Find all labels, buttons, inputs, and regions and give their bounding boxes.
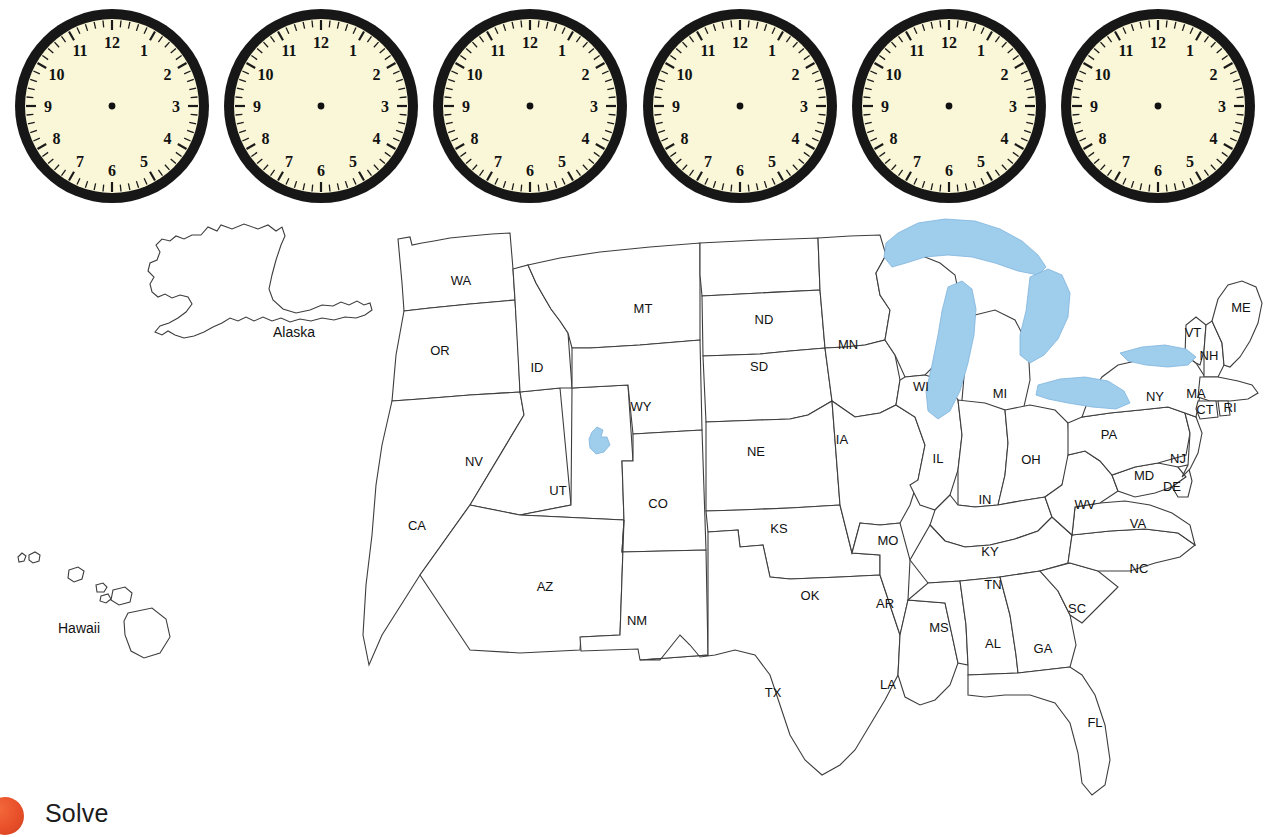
svg-text:2: 2 — [581, 66, 589, 83]
svg-text:12: 12 — [1150, 34, 1166, 51]
state-label-PA: PA — [1101, 427, 1118, 442]
svg-text:11: 11 — [700, 42, 715, 59]
svg-text:10: 10 — [886, 66, 902, 83]
svg-text:7: 7 — [1122, 153, 1130, 170]
svg-text:3: 3 — [590, 98, 598, 115]
svg-text:7: 7 — [704, 153, 712, 170]
svg-text:11: 11 — [909, 42, 924, 59]
svg-text:8: 8 — [890, 130, 898, 147]
state-label-KY: KY — [981, 544, 999, 559]
state-label-OH: OH — [1021, 452, 1041, 467]
svg-text:4: 4 — [1209, 130, 1217, 147]
state-label-FL: FL — [1087, 715, 1102, 730]
svg-text:3: 3 — [381, 98, 389, 115]
svg-text:7: 7 — [913, 153, 921, 170]
svg-text:2: 2 — [372, 66, 380, 83]
state-label-WV: WV — [1075, 497, 1096, 512]
state-ND — [700, 238, 820, 296]
state-label-IA: IA — [836, 432, 849, 447]
svg-text:9: 9 — [44, 98, 52, 115]
svg-text:11: 11 — [1118, 42, 1133, 59]
svg-text:2: 2 — [1000, 66, 1008, 83]
hawaii-shape — [18, 552, 170, 658]
svg-text:5: 5 — [558, 153, 566, 170]
svg-text:12: 12 — [941, 34, 957, 51]
svg-text:2: 2 — [163, 66, 171, 83]
svg-text:5: 5 — [140, 153, 148, 170]
svg-text:4: 4 — [372, 130, 380, 147]
svg-text:8: 8 — [53, 130, 61, 147]
state-label-AZ: AZ — [537, 579, 554, 594]
solve-label: Solve — [45, 799, 109, 828]
svg-text:10: 10 — [49, 66, 65, 83]
svg-text:1: 1 — [140, 42, 148, 59]
continental-states — [363, 233, 1262, 795]
svg-text:9: 9 — [672, 98, 680, 115]
svg-text:10: 10 — [1095, 66, 1111, 83]
clock-face-4[interactable]: 121234567891011 — [640, 6, 840, 206]
state-label-TX: TX — [765, 685, 782, 700]
svg-text:6: 6 — [1154, 162, 1162, 179]
svg-text:10: 10 — [467, 66, 483, 83]
svg-text:4: 4 — [163, 130, 171, 147]
svg-text:2: 2 — [1209, 66, 1217, 83]
state-label-ME: ME — [1231, 300, 1251, 315]
svg-text:3: 3 — [800, 98, 808, 115]
solve-bullet-icon — [0, 797, 24, 835]
inset-label-hawaii: Hawaii — [58, 620, 100, 636]
svg-text:11: 11 — [281, 42, 296, 59]
state-label-CT: CT — [1196, 402, 1213, 417]
state-label-NM: NM — [627, 613, 647, 628]
svg-text:9: 9 — [881, 98, 889, 115]
state-label-RI: RI — [1224, 400, 1237, 415]
svg-text:12: 12 — [732, 34, 748, 51]
svg-text:1: 1 — [558, 42, 566, 59]
state-label-ID: ID — [531, 360, 544, 375]
state-label-LA: LA — [880, 677, 896, 692]
svg-text:11: 11 — [490, 42, 505, 59]
svg-text:9: 9 — [1090, 98, 1098, 115]
state-label-NC: NC — [1130, 561, 1149, 576]
us-map: Alaska Hawaii — [0, 205, 1287, 800]
state-label-MO: MO — [878, 533, 899, 548]
svg-text:12: 12 — [313, 34, 329, 51]
state-label-KS: KS — [770, 521, 788, 536]
state-label-MA: MA — [1186, 386, 1206, 401]
state-label-MD: MD — [1134, 468, 1154, 483]
state-label-SC: SC — [1068, 601, 1086, 616]
footer-bar: Solve — [0, 795, 1287, 837]
state-label-AL: AL — [985, 636, 1001, 651]
svg-text:1: 1 — [768, 42, 776, 59]
svg-text:8: 8 — [471, 130, 479, 147]
state-label-NJ: NJ — [1170, 451, 1186, 466]
alaska-shape — [148, 224, 372, 338]
svg-text:9: 9 — [462, 98, 470, 115]
clock-face-2[interactable]: 121234567891011 — [221, 6, 421, 206]
state-label-IN: IN — [979, 492, 992, 507]
svg-text:3: 3 — [1009, 98, 1017, 115]
svg-text:5: 5 — [349, 153, 357, 170]
clock-face-1[interactable]: 121234567891011 — [12, 6, 212, 206]
svg-text:4: 4 — [791, 130, 799, 147]
svg-text:6: 6 — [526, 162, 534, 179]
state-label-OR: OR — [430, 343, 450, 358]
svg-text:8: 8 — [681, 130, 689, 147]
state-label-NE: NE — [747, 444, 765, 459]
clock-face-5[interactable]: 121234567891011 — [849, 6, 1049, 206]
svg-text:12: 12 — [104, 34, 120, 51]
state-label-DE: DE — [1163, 479, 1181, 494]
state-MA — [1198, 377, 1258, 401]
clock-face-6[interactable]: 121234567891011 — [1058, 6, 1258, 206]
svg-text:12: 12 — [522, 34, 538, 51]
state-label-WI: WI — [913, 379, 929, 394]
state-OR — [392, 300, 520, 401]
clock-face-3[interactable]: 121234567891011 — [430, 6, 630, 206]
state-label-CA: CA — [408, 518, 426, 533]
svg-text:7: 7 — [494, 153, 502, 170]
state-label-VA: VA — [1130, 516, 1147, 531]
svg-text:10: 10 — [258, 66, 274, 83]
inset-label-alaska: Alaska — [273, 324, 315, 340]
state-label-NY: NY — [1146, 389, 1164, 404]
svg-text:6: 6 — [945, 162, 953, 179]
state-label-CO: CO — [648, 496, 668, 511]
